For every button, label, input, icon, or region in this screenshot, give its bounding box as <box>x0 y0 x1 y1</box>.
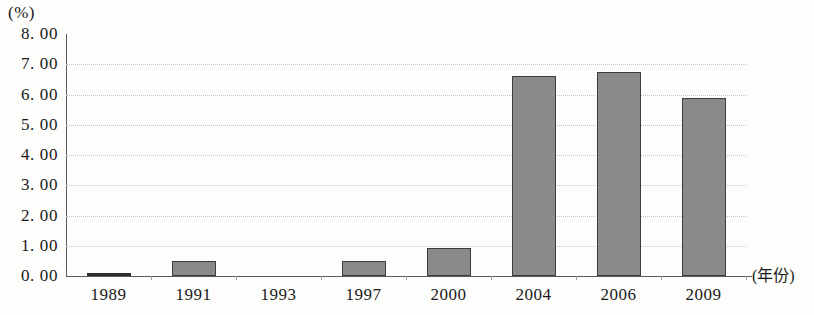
y-axis-tick-label: 0. 00 <box>0 266 58 286</box>
x-axis-tick-label: 2000 <box>431 285 467 305</box>
y-axis-tick-label: 4. 00 <box>0 145 58 165</box>
y-axis-tick-label: 8. 00 <box>0 24 58 44</box>
x-axis-tick-mark <box>321 276 322 280</box>
bar <box>597 72 641 276</box>
x-axis-tick-mark <box>151 276 152 280</box>
x-axis-tick-label: 1997 <box>346 285 382 305</box>
y-axis-tick-label: 2. 00 <box>0 206 58 226</box>
bar <box>87 273 131 276</box>
y-axis-tick-label: 5. 00 <box>0 115 58 135</box>
bar <box>682 98 726 276</box>
gridline <box>66 95 746 96</box>
gridline <box>66 125 746 126</box>
y-axis-tick-label: 7. 00 <box>0 54 58 74</box>
x-axis-line <box>66 276 752 277</box>
x-axis-tick-mark <box>661 276 662 280</box>
bar <box>427 248 471 276</box>
bar <box>172 261 216 276</box>
gridline <box>66 185 746 186</box>
gridline <box>66 64 746 65</box>
y-axis-tick-label: 3. 00 <box>0 175 58 195</box>
x-axis-tick-mark <box>406 276 407 280</box>
gridline <box>66 155 746 156</box>
x-axis-tick-label: 1989 <box>91 285 127 305</box>
x-axis-tick-mark <box>576 276 577 280</box>
bar <box>512 76 556 276</box>
y-axis-tick-label: 6. 00 <box>0 85 58 105</box>
x-axis-tick-label: 2006 <box>601 285 637 305</box>
bar-chart: (%) 8. 007. 006. 005. 004. 003. 002. 001… <box>0 0 814 315</box>
y-axis-tick-label: 1. 00 <box>0 236 58 256</box>
x-axis-tick-label: 2009 <box>686 285 722 305</box>
x-axis-tick-label: 2004 <box>516 285 552 305</box>
x-axis-tick-label: 1993 <box>261 285 297 305</box>
y-axis-unit-label: (%) <box>8 3 35 23</box>
x-axis-tick-label: 1991 <box>176 285 212 305</box>
plot-area <box>66 34 746 276</box>
bar <box>342 261 386 276</box>
x-axis-tick-mark <box>491 276 492 280</box>
x-axis-tick-mark <box>746 276 747 280</box>
x-axis-title: (年份) <box>752 262 795 286</box>
gridline <box>66 246 746 247</box>
gridline <box>66 216 746 217</box>
x-axis-tick-mark <box>236 276 237 280</box>
